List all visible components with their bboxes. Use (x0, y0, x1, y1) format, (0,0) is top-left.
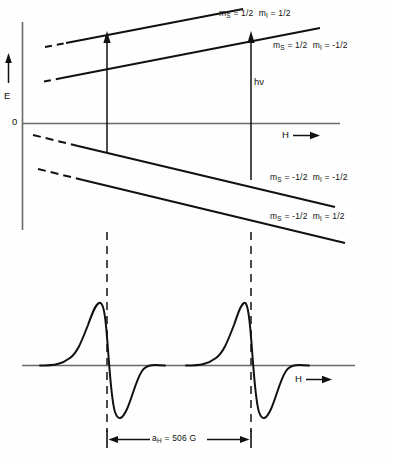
transition-arrow-left (103, 31, 110, 152)
state-3-mi-sub: I (320, 176, 322, 183)
hyperfine-coupling-label: aH = 506 G (152, 433, 196, 444)
field-axis-label-top: H (282, 129, 289, 140)
state-4-mi-sub: I (320, 215, 322, 222)
state-2-ms-sub: S (280, 44, 285, 51)
state-1-ms-sub: S (226, 12, 231, 19)
state-1-mi-sub: I (266, 12, 268, 19)
state-label-upper-2: mS = 1/2 mI = -1/2 (273, 40, 348, 51)
transition-arrow-right (247, 31, 254, 180)
state-3-ms-value: = -1/2 (284, 172, 307, 182)
energy-level-line-3-dashed (33, 135, 78, 146)
state-4-ms-sub: S (277, 215, 282, 222)
state-2-mi-sub: I (320, 44, 322, 51)
state-2-mi-symbol: m (313, 40, 320, 50)
energy-axis-arrow (5, 53, 12, 83)
state-label-lower-2: mS = -1/2 mI = 1/2 (270, 211, 345, 222)
field-axis-arrow-bottom (306, 376, 332, 383)
state-2-ms-value: = 1/2 (287, 40, 307, 50)
state-1-mi-value: = 1/2 (271, 8, 291, 18)
state-3-mi-value: = -1/2 (325, 172, 348, 182)
coupling-equals: = (164, 433, 169, 443)
state-4-mi-symbol: m (313, 211, 320, 221)
coupling-subscript: H (157, 437, 162, 444)
field-axis-label-bottom: H (295, 373, 302, 384)
field-axis-arrow-top (293, 132, 320, 139)
transition-energy-label: hν (254, 76, 264, 87)
energy-level-line-1-dashed (45, 43, 66, 47)
state-label-lower-1: mS = -1/2 mI = -1/2 (270, 172, 348, 183)
state-1-ms-value: = 1/2 (233, 8, 253, 18)
figure-canvas (0, 0, 393, 466)
state-3-mi-symbol: m (313, 172, 320, 182)
coupling-unit: G (190, 433, 197, 443)
coupling-value: 506 (172, 433, 187, 443)
spectrum-derivative-line-2 (186, 303, 309, 418)
state-3-ms-sub: S (277, 176, 282, 183)
state-1-mi-symbol: m (259, 8, 266, 18)
epr-energy-level-figure: E 0 H H hν mS = 1/2 mI = 1/2 mS = 1/2 mI… (0, 0, 393, 466)
state-4-mi-value: = 1/2 (325, 211, 345, 221)
energy-axis-label: E (4, 90, 10, 101)
state-4-ms-value: = -1/2 (284, 211, 307, 221)
energy-level-line-1 (66, 9, 243, 43)
spectrum-derivative-line-1 (40, 303, 165, 418)
energy-level-line-4-dashed (38, 169, 83, 180)
energy-level-line-2-dashed (44, 78, 62, 82)
zero-energy-label: 0 (12, 116, 17, 127)
state-label-upper-1: mS = 1/2 mI = 1/2 (219, 8, 291, 19)
state-2-mi-value: = -1/2 (325, 40, 348, 50)
